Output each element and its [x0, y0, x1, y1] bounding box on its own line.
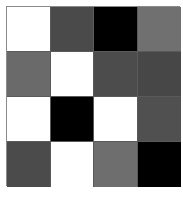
- grid-cell-r3-c1: [7, 97, 51, 142]
- canvas: [0, 0, 183, 198]
- grid-cell-r2-c3: [94, 52, 138, 97]
- grid-cell-r1-c1: [7, 7, 51, 52]
- grid-cell-r4-c3: [94, 142, 138, 187]
- grid-cell-r1-c4: [138, 7, 181, 52]
- grayscale-grid: [6, 6, 180, 186]
- grid-cell-r4-c2: [51, 142, 94, 187]
- grid-cell-r1-c2: [51, 7, 94, 52]
- grid-cell-r4-c4: [138, 142, 181, 187]
- grid-cell-r1-c3: [94, 7, 138, 52]
- grid-cell-r3-c4: [138, 97, 181, 142]
- grid-cell-r4-c1: [7, 142, 51, 187]
- grid-cell-r3-c3: [94, 97, 138, 142]
- grid-cell-r2-c1: [7, 52, 51, 97]
- grid-cell-r2-c4: [138, 52, 181, 97]
- grid-cell-r2-c2: [51, 52, 94, 97]
- grid-cell-r3-c2: [51, 97, 94, 142]
